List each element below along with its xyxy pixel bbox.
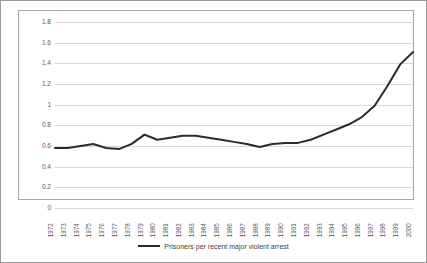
- y-axis-tick-label: 0: [47, 205, 51, 212]
- y-axis-tick-label: 1.8: [42, 19, 51, 26]
- x-axis-tick-label: 1989: [265, 223, 271, 237]
- y-axis-tick-label: 0.2: [42, 184, 51, 191]
- x-axis-tick-label: 1998: [380, 223, 386, 237]
- x-axis-tick-label: 1991: [291, 223, 297, 237]
- x-axis-tick-label: 1973: [60, 223, 66, 237]
- series-line-prisoners-per-recent-major-violent-arrest: [55, 22, 413, 208]
- x-axis-tick-label: 1993: [316, 223, 322, 237]
- x-axis-tick-label: 1974: [73, 223, 79, 237]
- x-axis-tick-label: 1994: [329, 223, 335, 237]
- plot-frame: 1.81.61.41.210.80.60.40.20: [18, 10, 414, 200]
- x-axis-tick-label: 1999: [393, 223, 399, 237]
- x-axis-tick-label: 1978: [124, 223, 130, 237]
- x-axis-tick-label: 1986: [227, 223, 233, 237]
- x-axis-tick-label: 1988: [252, 223, 258, 237]
- legend-label: Prisoners per recent major violent arres…: [164, 243, 289, 250]
- y-axis-tick-label: 1: [47, 101, 51, 108]
- x-axis-tick-label: 1981: [163, 223, 169, 237]
- x-axis-tick-label: 1979: [137, 223, 143, 237]
- y-axis-tick-label: 0.4: [42, 163, 51, 170]
- x-axis-tick-label: 1996: [355, 223, 361, 237]
- chart-container: 1.81.61.41.210.80.60.40.20 1972197319741…: [0, 0, 427, 263]
- x-axis-tick-label: 1992: [303, 223, 309, 237]
- x-axis-tick-label: 1997: [367, 223, 373, 237]
- x-axis-tick-label: 1977: [112, 223, 118, 237]
- x-axis-tick-label: 2000: [406, 223, 412, 237]
- x-axis-tick-label: 1983: [188, 223, 194, 237]
- chart-legend: Prisoners per recent major violent arres…: [1, 238, 426, 254]
- x-axis-tick-label: 1976: [99, 223, 105, 237]
- x-axis-tick-label: 1972: [48, 223, 54, 237]
- series-polyline: [55, 52, 413, 149]
- x-axis-tick-labels: 1972197319741975197619771978197919801981…: [54, 201, 412, 237]
- x-axis-tick-label: 1982: [176, 223, 182, 237]
- x-axis-tick-label: 1984: [201, 223, 207, 237]
- y-axis-tick-label: 1.6: [42, 39, 51, 46]
- x-axis-tick-label: 1987: [239, 223, 245, 237]
- x-axis-tick-label: 1985: [214, 223, 220, 237]
- y-axis-tick-label: 1.2: [42, 81, 51, 88]
- x-axis-tick-label: 1980: [150, 223, 156, 237]
- line-swatch-icon: [138, 245, 160, 247]
- x-axis-tick-label: 1990: [278, 223, 284, 237]
- y-axis-tick-label: 0.8: [42, 122, 51, 129]
- x-axis-tick-label: 1995: [342, 223, 348, 237]
- x-axis-tick-label: 1975: [86, 223, 92, 237]
- y-axis-tick-label: 0.6: [42, 143, 51, 150]
- y-axis-tick-label: 1.4: [42, 60, 51, 67]
- plot-area: 1.81.61.41.210.80.60.40.20: [55, 22, 413, 208]
